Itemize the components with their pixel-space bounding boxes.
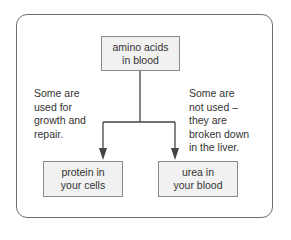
amino-acids-node: amino acids in blood [101, 36, 180, 71]
annotation-line: in the liver. [189, 141, 249, 155]
node-line: in blood [122, 54, 159, 67]
protein-node: protein in your cells [43, 161, 123, 197]
annotation-line: they are [189, 114, 249, 128]
arrow-down-icon [99, 148, 107, 160]
annotation-line: growth and [34, 114, 86, 128]
urea-node: urea in your blood [158, 161, 238, 197]
node-line: your cells [61, 179, 105, 192]
annotation-line: not used – [189, 101, 249, 115]
node-line: protein in [61, 166, 104, 179]
used-annotation: Some are used for growth and repair. [34, 87, 86, 141]
node-line: urea in [182, 166, 214, 179]
node-line: your blood [173, 179, 222, 192]
annotation-line: used for [34, 101, 86, 115]
annotation-line: repair. [34, 128, 86, 142]
not-used-annotation: Some are not used – they are broken down… [189, 87, 249, 155]
annotation-line: Some are [189, 87, 249, 101]
annotation-line: Some are [34, 87, 86, 101]
node-line: amino acids [112, 41, 168, 54]
arrow-down-icon [171, 148, 179, 160]
annotation-line: broken down [189, 128, 249, 142]
